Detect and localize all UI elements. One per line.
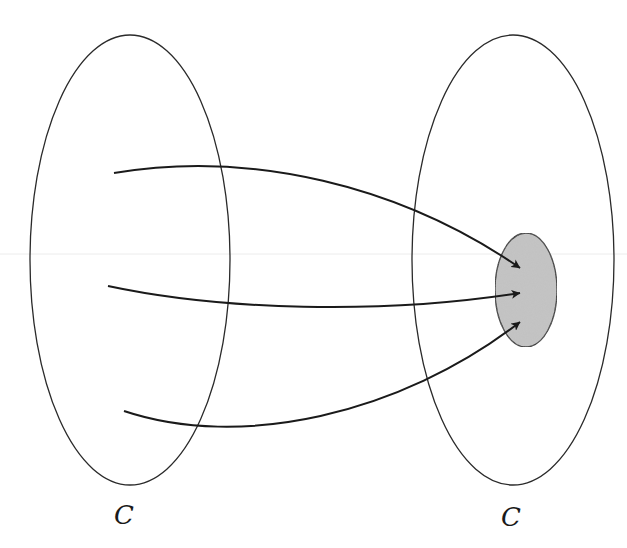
mapping-arrow-middle (108, 286, 520, 307)
domain-set-ellipse (30, 35, 230, 485)
domain-set-label: C (114, 502, 134, 528)
codomain-set-label: C (501, 504, 521, 530)
mapping-arrow-bottom (124, 322, 520, 427)
image-subset-ellipse (495, 233, 557, 347)
mapping-arrow-top (114, 166, 520, 268)
mapping-diagram (0, 0, 627, 548)
